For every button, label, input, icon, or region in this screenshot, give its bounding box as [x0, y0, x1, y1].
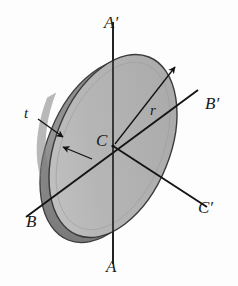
label-thickness: t [24, 106, 28, 121]
center-point [111, 144, 114, 147]
label-axis-b-right: B′ [205, 95, 219, 112]
label-axis-c-right: C′ [198, 199, 213, 216]
label-radius: r [150, 103, 156, 118]
diagram-canvas [0, 0, 238, 286]
label-axis-b-left: B [26, 213, 36, 230]
disk-axes-diagram: A′ A B′ B C′ C r t [0, 0, 238, 286]
label-axis-a-top: A′ [104, 14, 118, 31]
label-center: C [96, 132, 107, 149]
label-axis-a-bottom: A [106, 258, 116, 275]
